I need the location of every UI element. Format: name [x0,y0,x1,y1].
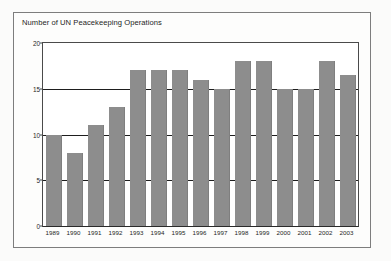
x-tick-label-2001: 2001 [298,229,312,236]
bar-1993 [130,70,147,226]
bars-layer [43,43,358,226]
x-tick-label-1990: 1990 [67,229,81,236]
x-tick-label-1989: 1989 [46,229,60,236]
x-tick-label-2003: 2003 [340,229,354,236]
bar-1996 [193,80,210,226]
x-tick-label-1994: 1994 [151,229,165,236]
x-axis-labels: 1989199019911992199319941995199619971998… [42,229,359,241]
y-tick-label-10: 10 [33,131,40,138]
bar-1989 [46,135,63,227]
bar-1992 [109,107,126,226]
bar-2002 [319,61,336,226]
bar-2001 [298,89,315,226]
bar-2003 [340,75,357,226]
bar-1994 [151,70,168,226]
x-tick-label-2002: 2002 [319,229,333,236]
x-tick-label-1999: 1999 [256,229,270,236]
x-tick-label-2000: 2000 [277,229,291,236]
y-tick-label-20: 20 [33,40,40,47]
plot-area: 05101520 [42,42,359,227]
x-tick-label-1991: 1991 [88,229,102,236]
figure-frame: Number of UN Peacekeeping Operations 051… [13,12,371,248]
bar-1999 [256,61,273,226]
y-tick-label-15: 15 [33,85,40,92]
bar-1998 [235,61,252,226]
bar-1991 [88,125,105,226]
bar-1995 [172,70,189,226]
x-tick-label-1995: 1995 [172,229,186,236]
bar-1997 [214,89,231,226]
x-tick-label-1993: 1993 [130,229,144,236]
x-tick-label-1992: 1992 [109,229,123,236]
x-tick-label-1998: 1998 [235,229,249,236]
chart-title: Number of UN Peacekeeping Operations [22,18,162,28]
x-tick-label-1997: 1997 [214,229,228,236]
bar-2000 [277,89,294,226]
bar-1990 [67,153,84,226]
x-tick-label-1996: 1996 [193,229,207,236]
